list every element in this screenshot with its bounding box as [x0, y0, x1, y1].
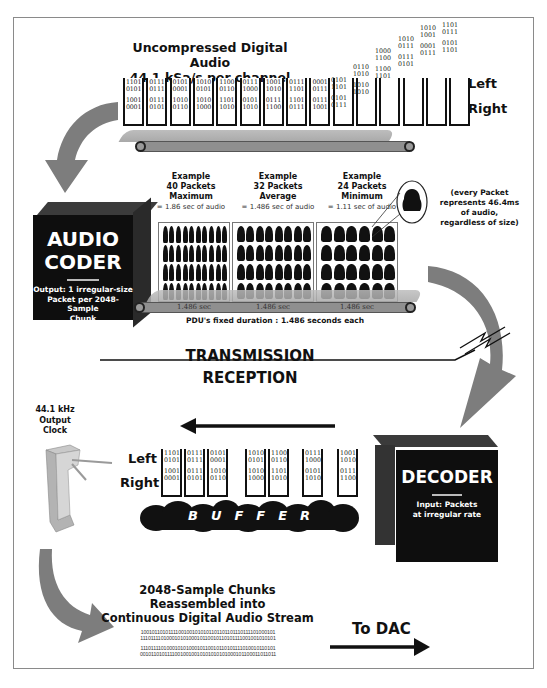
right-channel-bits: 11010111	[289, 96, 304, 111]
left-channel-bits: 01111000	[243, 78, 258, 93]
packet-icon	[403, 189, 422, 211]
packet	[334, 264, 345, 280]
coder-subtitle-line3: Chunk	[33, 314, 133, 324]
magnifier-line	[372, 193, 400, 227]
sample-bin: 1001101001111100	[263, 78, 284, 126]
packet	[246, 264, 254, 280]
packet	[372, 245, 383, 261]
packet	[176, 245, 181, 262]
right-channel-bits: 10100110	[210, 467, 226, 482]
right-channel-bits: 11011010	[271, 467, 287, 482]
packet	[265, 245, 273, 261]
left-channel-bits: 10011010	[266, 78, 281, 93]
empty-sample-bin	[426, 78, 447, 126]
buffer-label: BUFFER	[188, 508, 323, 523]
packet	[209, 264, 214, 281]
packet	[189, 264, 194, 281]
rising-sample-bits: 1101011101011101	[442, 21, 458, 54]
buffered-sample-bin: 1100011011011010	[268, 449, 289, 497]
right-channel-bits: 01110101	[149, 96, 164, 111]
transmission-label: TRANSMISSION	[160, 347, 340, 365]
right-channel-bits: 01111100	[266, 96, 281, 111]
packet-note-line3: of audio,	[432, 208, 527, 218]
right-channel-bits: 01111100	[340, 467, 356, 482]
empty-sample-bin	[403, 78, 424, 126]
packet	[202, 226, 207, 243]
packet	[222, 264, 227, 281]
right-channel-bits: 10010001	[164, 467, 180, 482]
packet	[176, 226, 181, 243]
right-channel-bits: 01111001	[312, 96, 327, 111]
reassembly-line2: Reassembled into	[100, 597, 315, 611]
packet	[216, 226, 221, 243]
buffer-direction-arrow	[180, 418, 340, 434]
packet	[294, 245, 302, 261]
packet	[384, 245, 395, 261]
packet	[163, 245, 168, 262]
left-channel-bits: 10100101	[248, 449, 264, 464]
stream-row: 0010110101111001001001010101010100010110…	[110, 651, 306, 657]
packet	[384, 264, 395, 280]
stream-row: 1110111101000101010001011001011010111100…	[110, 635, 306, 641]
magnifier-line	[372, 214, 400, 237]
packet	[216, 264, 221, 281]
example-line1: Example	[150, 172, 232, 182]
packet	[303, 226, 311, 242]
left-channel-bits: 00010111	[312, 78, 327, 93]
coder-subtitle-line1: Output: 1 irregular-size	[33, 285, 133, 295]
left-channel-bits: 01010001	[210, 449, 226, 464]
packet	[246, 245, 254, 261]
packet	[265, 226, 273, 242]
decoder-title: DECODER	[396, 466, 498, 489]
bottom-right-label: Right	[120, 475, 159, 490]
decoder-subtitle-line1: Input: Packets	[396, 500, 498, 510]
packet	[346, 245, 357, 261]
packet	[222, 245, 227, 262]
buffered-sample-bin: 1001101001111100	[337, 449, 358, 497]
left-channel-bits: 10100101	[196, 78, 211, 93]
left-channel-bits: 11000110	[219, 78, 234, 93]
right-channel-bits: 11011010	[219, 96, 234, 111]
packet	[163, 226, 168, 243]
packet	[275, 245, 283, 261]
packet	[189, 226, 194, 243]
buffered-sample-bin: 0111100001011010	[302, 449, 323, 497]
left-channel-bits: 10011010	[340, 449, 356, 464]
top-right-label: Right	[468, 101, 507, 116]
packet	[256, 264, 264, 280]
packet	[189, 245, 194, 262]
top-title-line1: Uncompressed Digital Audio	[115, 40, 305, 70]
packet	[321, 264, 332, 280]
packet	[256, 245, 264, 261]
packet	[294, 226, 302, 242]
packet	[372, 264, 383, 280]
pdu-caption: PDU's fixed duration : 1.486 seconds eac…	[140, 316, 410, 325]
arrow-left-icon	[180, 418, 196, 434]
rising-sample-bits: 1000110011001101	[375, 47, 391, 80]
packet-note: (every Packet represents 46.4ms of audio…	[432, 188, 527, 228]
top-conveyor-roller-left	[135, 141, 146, 152]
packet	[275, 226, 283, 242]
clock-line1: 44.1 kHz	[25, 405, 85, 416]
packet	[216, 245, 221, 262]
sample-bin: 0111100001011010	[240, 78, 261, 126]
packet	[359, 264, 370, 280]
packet-magnifier	[360, 180, 430, 245]
packet	[294, 264, 302, 280]
left-channel-bits: 01111101	[289, 78, 304, 93]
flow-arrow-to-coder	[30, 90, 130, 200]
packet	[303, 264, 311, 280]
packet	[303, 245, 311, 261]
packet-note-line1: (every Packet	[432, 188, 527, 198]
left-channel-bits: 01010001	[173, 78, 188, 93]
digital-stream: 1001011010111100100101010110110110111011…	[110, 629, 306, 657]
buffered-sample-bin: 0101000110100110	[207, 449, 228, 497]
packet	[202, 264, 207, 281]
example-line2: 32 Packets	[232, 182, 324, 192]
reassembly-title: 2048-Sample Chunks Reassembled into Cont…	[100, 583, 315, 625]
packet	[246, 226, 254, 242]
bottom-left-label: Left	[128, 451, 157, 466]
packet	[169, 245, 174, 262]
packet	[222, 226, 227, 243]
right-channel-bits: 01011010	[243, 96, 258, 111]
